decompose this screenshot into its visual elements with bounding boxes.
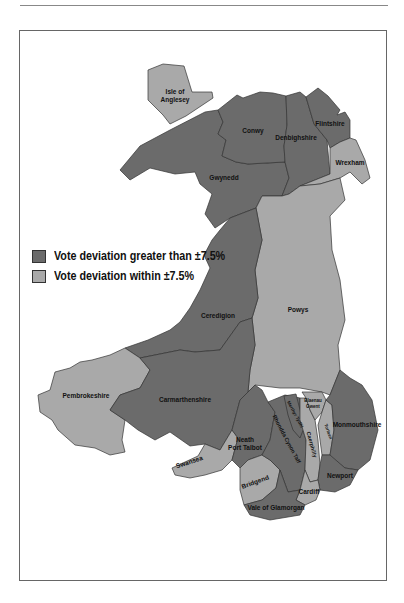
legend-swatch-dark: [32, 250, 46, 263]
label-ceredigion: Ceredigion: [201, 312, 235, 320]
label-blaenau-1: Blaenau: [304, 398, 322, 403]
label-carmarthenshire: Carmarthenshire: [159, 396, 211, 403]
legend-swatch-light: [32, 270, 46, 283]
label-wrexham: Wrexham: [335, 159, 364, 166]
label-denbighshire: Denbighshire: [275, 134, 317, 142]
label-pembrokeshire: Pembrokeshire: [63, 392, 110, 399]
label-neath-1: Neath: [236, 436, 254, 443]
label-vale: Vale of Glamorgan: [247, 504, 304, 512]
label-newport: Newport: [327, 472, 354, 480]
legend-label-within: Vote deviation within ±7.5%: [54, 269, 194, 283]
label-anglesey-2: Anglesey: [161, 96, 190, 104]
label-blaenau-2: Gwent: [306, 404, 320, 409]
label-cardiff: Cardiff: [299, 488, 321, 495]
label-monmouthshire: Monmouthshire: [333, 421, 382, 428]
label-powys: Powys: [288, 306, 309, 314]
label-anglesey-1: Isle of: [166, 88, 186, 95]
wales-map: Isle of Anglesey Conwy Denbighshire Flin…: [0, 0, 404, 603]
label-conwy: Conwy: [242, 127, 264, 135]
label-gwynedd: Gwynedd: [209, 174, 238, 182]
map-legend: Vote deviation greater than ±7.5% Vote d…: [32, 246, 253, 286]
region-monmouthshire[interactable]: [326, 370, 378, 470]
label-flintshire: Flintshire: [315, 120, 345, 127]
legend-item-greater: Vote deviation greater than ±7.5%: [32, 246, 253, 266]
region-powys[interactable]: [248, 178, 345, 395]
legend-item-within: Vote deviation within ±7.5%: [32, 266, 253, 286]
label-neath-2: Port Talbot: [228, 444, 263, 451]
legend-label-greater: Vote deviation greater than ±7.5%: [54, 249, 225, 263]
